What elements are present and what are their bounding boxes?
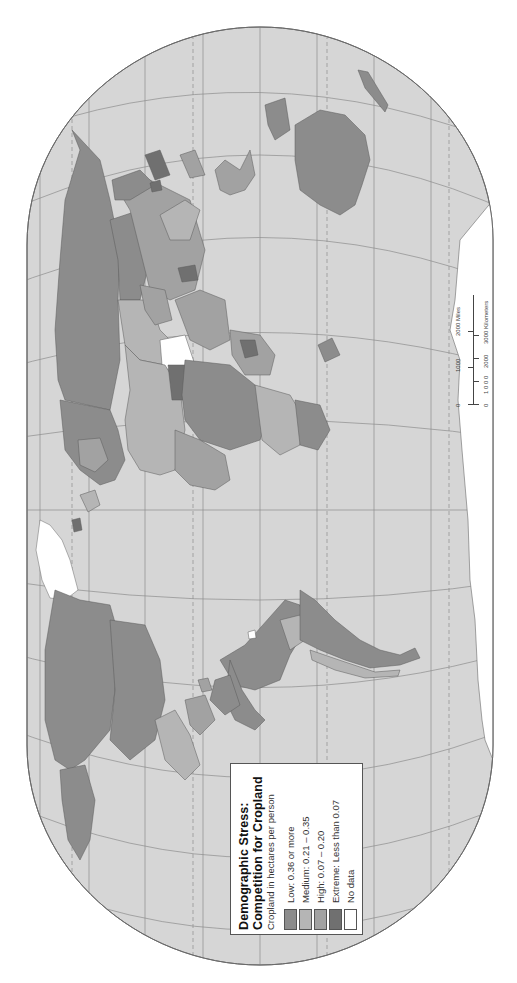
legend-label-low: Low: 0.36 or more <box>285 826 296 903</box>
scale-km-3000: 3000 Kilometers <box>483 301 489 344</box>
legend-title-line1: Demographic Stress: <box>237 770 251 930</box>
legend-item-high: High: 0.07 – 0.20 <box>313 770 328 930</box>
legend-subtitle: Cropland in hectares per person <box>265 770 277 930</box>
legend-title-line2: Competition for Cropland <box>251 770 265 930</box>
legend-label-medium: Medium: 0.21 – 0.35 <box>300 816 311 903</box>
scale-km-0: 0 <box>483 404 489 407</box>
scale-miles-0: 0 <box>455 404 461 407</box>
legend-swatch-medium <box>299 909 312 930</box>
scale-bar: 0 1000 2000 Miles 0 1 0 0 0 2000 3000 Ki… <box>452 283 498 408</box>
legend-item-low: Low: 0.36 or more <box>283 770 298 930</box>
legend-item-no-data: No data <box>343 770 358 930</box>
scale-km-2000: 2000 <box>483 355 489 368</box>
legend-label-high: High: 0.07 – 0.20 <box>315 831 326 903</box>
legend-label-extreme: Extreme: Less than 0.07 <box>330 800 341 903</box>
legend-label-no-data: No data <box>345 870 356 903</box>
legend-item-medium: Medium: 0.21 – 0.35 <box>298 770 313 930</box>
scale-miles-1000: 1000 <box>455 359 461 372</box>
scale-line <box>473 295 474 405</box>
scale-miles-2000: 2000 Miles <box>455 307 461 336</box>
legend-swatch-low <box>284 909 297 930</box>
legend-swatch-extreme <box>329 909 342 930</box>
legend-swatch-high <box>314 909 327 930</box>
legend: Demographic Stress: Competition for Crop… <box>230 763 363 935</box>
scale-km-1000: 1 0 0 0 <box>483 376 489 394</box>
legend-item-extreme: Extreme: Less than 0.07 <box>328 770 343 930</box>
legend-swatch-no-data <box>344 909 357 930</box>
iceland <box>72 518 82 532</box>
